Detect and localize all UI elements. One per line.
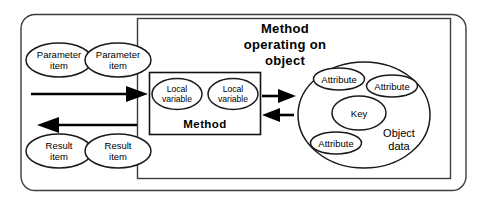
result-item-2-line-2: item [109,151,127,162]
diagram-title-line-2: operating on [244,37,326,52]
result-item-1-line-2: item [50,151,68,162]
local-variable-1-line-1: Local [167,84,188,94]
attribute-label-2: Attribute [374,81,409,92]
parameter-item-2-line-2: item [109,60,127,71]
method-operating-on-object-diagram: Method operating on object Local variabl… [0,0,484,205]
parameter-item-1-line-2: item [50,60,68,71]
parameter-item-1-line-1: Parameter [37,49,81,60]
result-item-2-line-1: Result [105,140,132,151]
result-item-1-line-1: Result [46,140,73,151]
key-label: Key [351,108,368,119]
attribute-label-1: Attribute [321,74,356,85]
local-variable-2-line-2: variable [218,94,248,104]
diagram-title-line-1: Method [261,21,309,36]
object-data-label-line-1: Object [383,127,415,139]
diagram-title-line-3: object [265,53,305,68]
parameter-item-2-line-1: Parameter [96,49,140,60]
local-variable-2-line-1: Local [223,84,244,94]
object-data-label-line-2: data [388,140,410,152]
diagram-canvas: Method operating on object Local variabl… [0,0,484,205]
local-variable-1-line-2: variable [162,94,192,104]
method-box-label: Method [183,118,226,130]
attribute-label-3: Attribute [318,138,353,149]
